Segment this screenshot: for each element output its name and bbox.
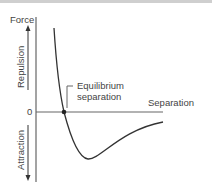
annotation-leader	[67, 86, 73, 108]
arrow-down-icon	[26, 175, 31, 181]
y-axis-label: Force	[10, 14, 34, 25]
arrow-up-icon	[26, 25, 31, 31]
annotation-line1: Equilibrium	[77, 80, 124, 91]
origin-label: 0	[27, 106, 32, 117]
annotation-line2: separation	[77, 91, 121, 102]
equilibrium-point	[62, 110, 67, 115]
attraction-label: Attraction	[15, 130, 26, 170]
repulsion-label: Repulsion	[15, 46, 26, 88]
x-axis-label: Separation	[148, 97, 194, 108]
